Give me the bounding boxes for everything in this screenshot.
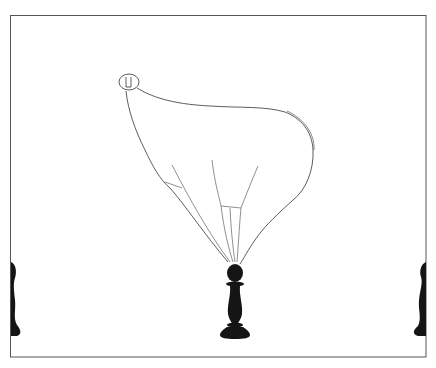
- strings: [165, 160, 258, 262]
- balloon: [126, 88, 314, 264]
- keyhole-head: [119, 74, 139, 90]
- center-pawn: [220, 264, 250, 339]
- right-pawn-partial: [414, 262, 426, 336]
- frame: [11, 16, 427, 358]
- illustration: [0, 0, 436, 368]
- left-pawn-partial: [11, 262, 20, 336]
